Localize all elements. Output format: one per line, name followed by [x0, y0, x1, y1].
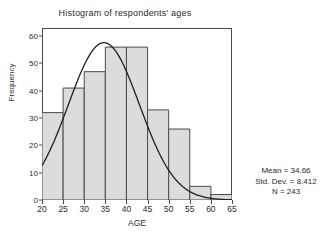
y-tick-label: 20 — [29, 141, 42, 150]
histogram-figure: Histogram of respondents' ages Frequency… — [0, 0, 330, 247]
plot-svg — [42, 28, 232, 200]
stat-n: N = 243 — [244, 187, 328, 198]
y-tick-label: 60 — [29, 32, 42, 41]
y-tick-label: 10 — [29, 168, 42, 177]
y-axis-label: Frequency — [7, 48, 16, 118]
chart-title: Histogram of respondents' ages — [0, 8, 250, 18]
y-tick-label: 50 — [29, 59, 42, 68]
x-tick-label: 60 — [206, 204, 215, 214]
x-tick-label: 40 — [122, 204, 131, 214]
stat-std-dev: Std. Dev. = 8.412 — [244, 177, 328, 188]
x-tick-label: 45 — [143, 204, 152, 214]
x-axis-label: AGE — [42, 218, 232, 228]
y-tick-label: 30 — [29, 114, 42, 123]
x-tick-label: 25 — [58, 204, 67, 214]
y-tick-label: 40 — [29, 86, 42, 95]
x-tick-label: 50 — [164, 204, 173, 214]
stat-mean: Mean = 34.66 — [244, 166, 328, 177]
x-tick-label: 65 — [227, 204, 236, 214]
x-tick-label: 35 — [101, 204, 110, 214]
statistics-annotation: Mean = 34.66 Std. Dev. = 8.412 N = 243 — [244, 166, 328, 198]
x-tick-label: 20 — [37, 204, 46, 214]
x-tick-label: 55 — [185, 204, 194, 214]
x-tick-label: 30 — [79, 204, 88, 214]
